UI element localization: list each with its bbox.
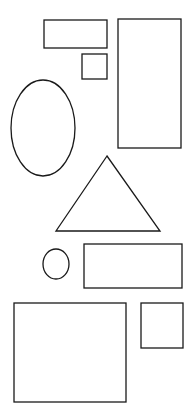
small-circle — [43, 249, 69, 279]
tall-rectangle — [118, 19, 181, 148]
wide-rectangle — [44, 20, 107, 48]
small-square-top — [82, 54, 107, 79]
medium-rectangle — [84, 244, 182, 288]
triangle — [56, 156, 160, 231]
shapes-canvas — [0, 0, 194, 416]
small-square-bottom — [141, 303, 183, 348]
large-rectangle — [14, 303, 126, 402]
tall-ellipse — [11, 80, 75, 176]
